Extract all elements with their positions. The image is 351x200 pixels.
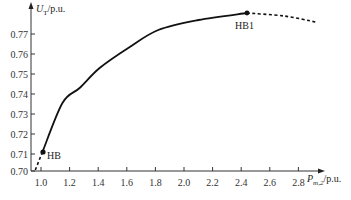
x-tick-label: 1.2 [63, 177, 76, 188]
x-tick-label: 1.6 [121, 177, 134, 188]
solid-curve [42, 13, 246, 152]
y-tick-label: 0.73 [11, 109, 29, 120]
y-tick-label: 0.74 [11, 89, 29, 100]
axes [31, 6, 320, 171]
dashed-curve [247, 13, 316, 22]
x-tick-label: 2.2 [206, 177, 219, 188]
y-tick-label: 0.71 [11, 149, 29, 160]
x-tick-label: 1.8 [149, 177, 162, 188]
chart: 0.700.710.720.730.740.750.760.77 1.01.21… [0, 0, 351, 200]
y-tick-label: 0.75 [11, 69, 29, 80]
x-tick-label: 2.4 [235, 177, 248, 188]
hb1-point [245, 11, 250, 16]
x-tick-label: 2.8 [292, 177, 305, 188]
y-tick-label: 0.72 [11, 129, 29, 140]
y-tick-label: 0.76 [11, 49, 29, 60]
y-tick-label: 0.70 [11, 166, 29, 177]
hb1-label: HB1 [235, 20, 254, 31]
series-lines [35, 13, 315, 170]
y-axis-arrow-icon [29, 2, 34, 9]
x-tick-label: 1.0 [35, 177, 48, 188]
x-tick-label: 2.0 [178, 177, 191, 188]
x-axis-title: Pm,2/p.u. [306, 173, 341, 187]
hb-label: HB [47, 150, 61, 161]
x-tick-label: 2.6 [264, 177, 277, 188]
x-tick-label: 1.4 [92, 177, 105, 188]
y-axis-title: UT/p.u. [36, 3, 65, 17]
x-ticks: 1.01.21.41.61.82.02.22.42.62.8 [35, 167, 305, 188]
hb-point [40, 149, 45, 154]
y-tick-label: 0.77 [11, 29, 29, 40]
